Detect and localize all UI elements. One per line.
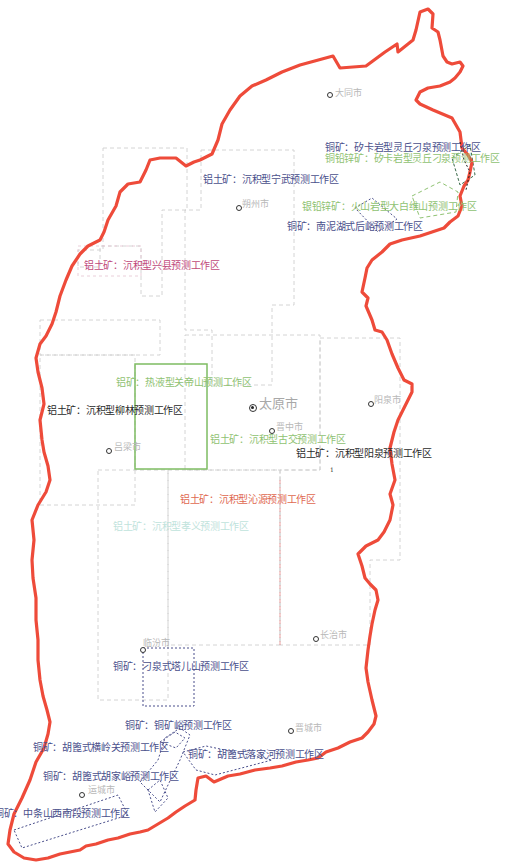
city-marker-datong — [327, 92, 333, 98]
city-label-changzhi: 长治市 — [320, 630, 347, 640]
taershan-area-outline — [143, 648, 194, 706]
stray-mark: 1 — [330, 464, 334, 476]
hujiayu-area-outline — [148, 780, 168, 812]
city-label-datong: 大同市 — [335, 88, 362, 98]
label-bauxite-qinyuan: 铝土矿：沉积型沁源预测工作区 — [180, 494, 316, 506]
city-marker-changzhi — [313, 636, 319, 642]
label-copper-taershan: 铜矿：刁泉式塔儿山预测工作区 — [113, 661, 249, 673]
city-marker-lvliang — [106, 448, 112, 454]
city-label-taiyuan: 太原市 — [259, 397, 298, 411]
xingxian-area-outline — [78, 148, 187, 296]
label-copper-tongkuangyu: 铜矿：铜矿峪预测工作区 — [125, 720, 232, 732]
xingxian-lower-outline — [40, 320, 160, 355]
label-bauxite-yangquan: 铝土矿：沉积型阳泉预测工作区 — [296, 448, 432, 460]
city-label-jinzhong: 晋中市 — [276, 422, 303, 432]
city-marker-taiyuan — [249, 404, 257, 412]
label-copper-houyu: 铜矿：南泥湖式后峪预测工作区 — [287, 221, 423, 233]
label-bauxite-xingxian: 铝土矿：沉积型兴县预测工作区 — [84, 260, 220, 272]
label-cupbzn-diaoquan: 铜铅锌矿：矽卡岩型灵丘刁泉预测工作区 — [325, 153, 500, 165]
label-bauxite-ningwu: 铝土矿：沉积型宁武预测工作区 — [203, 174, 339, 186]
yangquan-area-outline — [280, 338, 400, 645]
label-copper-zhongtiao: 铜矿：中条山西南段预测工作区 — [0, 808, 130, 820]
label-copper-luojiahe: 铜矿：胡篦式落家河预测工作区 — [188, 749, 324, 761]
label-bauxite-liulin: 铝土矿：沉积型柳林预测工作区 — [47, 405, 183, 417]
city-label-lvliang: 吕梁市 — [114, 442, 141, 452]
label-gold-guandishan: 铝矿：热液型关帝山预测工作区 — [116, 377, 252, 389]
city-label-jincheng: 晋城市 — [295, 723, 322, 733]
city-marker-jincheng — [288, 728, 294, 734]
city-label-shuozhou: 朔州市 — [242, 199, 269, 209]
city-label-yuncheng: 运城市 — [88, 785, 115, 795]
label-copper-henglingguan: 铜矿：胡篦式横岭关预测工作区 — [33, 742, 169, 754]
label-agpbzn-dabaiweishan: 银铅锌矿：火山岩型大白维山预测工作区 — [302, 201, 477, 213]
city-label-linfen: 临汾市 — [143, 638, 170, 648]
label-bauxite-xiaoyi: 铝土矿：沉积型孝义预测工作区 — [113, 521, 249, 533]
label-bauxite-gujiao: 铝土矿：沉积型古交预测工作区 — [210, 434, 346, 446]
label-copper-hujiayu: 铜矿：胡篦式胡家峪预测工作区 — [43, 771, 179, 783]
city-marker-yuncheng — [79, 792, 85, 798]
city-label-yangquan: 阳泉市 — [374, 395, 401, 405]
